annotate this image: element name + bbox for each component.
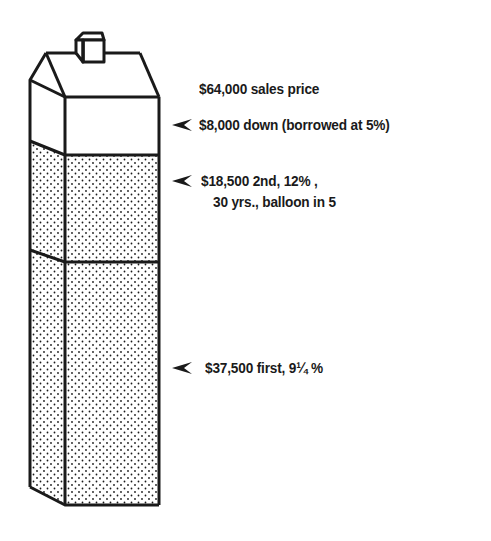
arrowhead-left-icon [172,175,192,187]
second-mortgage-label-line1: $18,500 2nd, 12% , [201,171,318,190]
second-mortgage-label-line2: 30 yrs., balloon in 5 [213,192,336,211]
down-payment-label: $8,000 down (borrowed at 5%) [199,115,390,134]
house-column [30,33,159,505]
arrowhead-left-icon [172,362,192,374]
roof-right-slope [140,53,159,97]
sales-price-label: $64,000 sales price [199,79,319,98]
arrowhead-left-icon [172,119,192,131]
chimney-icon [76,33,104,62]
first-mortgage-label: $37,500 first, 9¼ % [205,358,323,377]
front-dotted-fill [65,155,159,505]
side-dotted-fill [30,141,65,505]
